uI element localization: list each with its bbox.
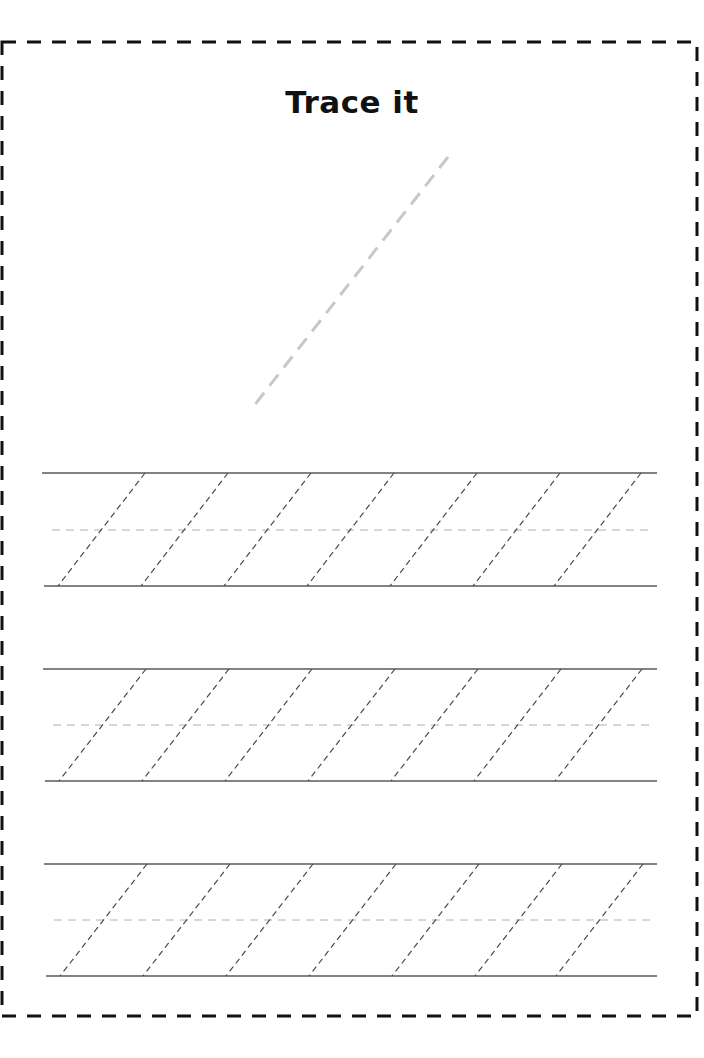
example-slant-stroke bbox=[253, 157, 448, 407]
practice-row[interactable] bbox=[44, 864, 657, 976]
worksheet-page: Trace it bbox=[0, 0, 704, 1058]
practice-row[interactable] bbox=[43, 669, 657, 781]
practice-row[interactable] bbox=[42, 473, 657, 586]
tracing-canvas bbox=[0, 0, 704, 1058]
dashed-cut-border bbox=[2, 42, 697, 1016]
practice-rows bbox=[42, 473, 657, 976]
